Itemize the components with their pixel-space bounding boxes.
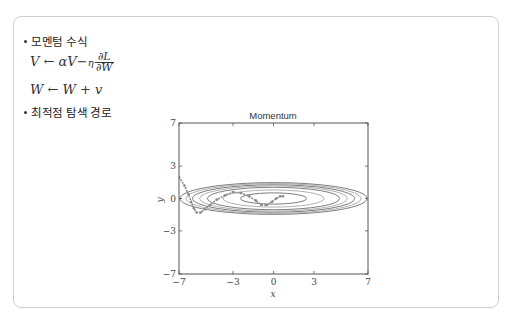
path-markers <box>178 176 285 214</box>
path-point <box>193 207 196 210</box>
path-point <box>279 195 282 198</box>
y-tick-label: 3 <box>170 161 176 171</box>
contour-ellipse <box>207 187 339 209</box>
y-tick-label: −3 <box>163 226 177 236</box>
path-point <box>271 200 274 203</box>
y-tick-label: 0 <box>170 194 176 204</box>
axis-ticks: −7−3037−7−3037 <box>163 118 371 287</box>
y-tick-label: −7 <box>163 269 177 279</box>
contour-ellipse <box>240 193 306 204</box>
path-point <box>216 198 219 201</box>
path-point <box>195 211 198 214</box>
contour-ellipse <box>186 184 361 214</box>
x-axis-label: x <box>270 289 275 299</box>
x-tick-label: 0 <box>271 277 277 287</box>
chart-title: Momentum <box>249 110 297 121</box>
path-point <box>232 191 235 194</box>
path-point <box>199 211 202 214</box>
path-point <box>255 199 258 202</box>
x-tick-label: 3 <box>311 277 317 287</box>
path-point <box>265 204 268 207</box>
path-point <box>240 192 243 195</box>
path-point <box>282 195 285 198</box>
x-tick-label: 7 <box>365 277 371 287</box>
momentum-chart: Momentum −7−3037−7−3037 x y <box>0 0 511 322</box>
y-axis-label: y <box>155 197 165 204</box>
y-tick-label: 7 <box>170 118 176 128</box>
path-point <box>190 200 193 203</box>
path-point <box>209 204 212 207</box>
path-point <box>275 197 278 200</box>
contour-lines <box>180 183 367 215</box>
x-tick-label: −3 <box>226 277 240 287</box>
path-point <box>224 194 227 197</box>
path-point <box>260 204 263 207</box>
path-point <box>203 208 206 211</box>
path-point <box>187 193 190 196</box>
path-point <box>183 184 186 187</box>
path-point <box>248 195 251 198</box>
